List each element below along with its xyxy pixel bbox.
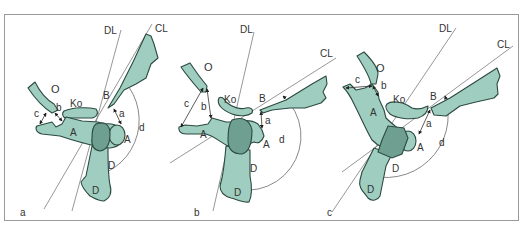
label-ko: Ko <box>393 94 406 105</box>
label-a-head: A <box>124 134 131 145</box>
label-a-shaft: A <box>370 107 377 118</box>
panel-label-c: c <box>327 207 332 218</box>
label-o: O <box>376 62 385 74</box>
panel-label-b: b <box>194 207 200 218</box>
label-measure-d: d <box>279 134 285 145</box>
label-measure-a: a <box>119 108 125 119</box>
bone-ko <box>63 108 98 118</box>
label-b: B <box>103 90 110 101</box>
bone-overlap <box>228 118 252 154</box>
label-dl: DL <box>439 23 452 34</box>
label-b: B <box>430 91 437 102</box>
label-measure-c: c <box>34 108 39 119</box>
label-d-upper: D <box>392 163 399 174</box>
label-a-shaft: A <box>70 127 77 138</box>
anatomical-diagram: DL CL O Ko B A A D D a b c d a DL CL <box>0 0 530 231</box>
label-d-upper: D <box>250 163 257 174</box>
bone-a-head <box>109 125 125 145</box>
label-d-lower: D <box>367 184 374 195</box>
label-measure-b: b <box>381 80 387 91</box>
bone-overlap <box>92 123 110 151</box>
label-o: O <box>204 61 213 73</box>
label-o: O <box>51 83 60 95</box>
label-a-shaft: A <box>200 129 207 140</box>
label-cl: CL <box>155 23 168 34</box>
label-a-head: A <box>417 142 424 153</box>
label-dl: DL <box>240 24 253 35</box>
label-measure-c: c <box>355 74 360 85</box>
label-measure-d: d <box>139 122 145 133</box>
label-measure-a: a <box>265 115 271 126</box>
panel-label-a: a <box>20 207 26 218</box>
label-ko: Ko <box>224 94 237 105</box>
label-cl: CL <box>320 48 333 59</box>
label-measure-b: b <box>201 101 207 112</box>
label-a-head: A <box>263 139 270 150</box>
label-d-upper: D <box>108 160 115 171</box>
label-cl: CL <box>497 39 510 50</box>
label-d-lower: D <box>234 187 241 198</box>
label-measure-d: d <box>439 137 445 148</box>
label-measure-c: c <box>184 98 189 109</box>
label-ko: Ko <box>70 98 83 109</box>
label-measure-a: a <box>426 118 432 129</box>
label-d-lower: D <box>92 185 99 196</box>
label-measure-b: b <box>56 102 62 113</box>
label-b: B <box>259 93 266 104</box>
label-dl: DL <box>104 25 117 36</box>
